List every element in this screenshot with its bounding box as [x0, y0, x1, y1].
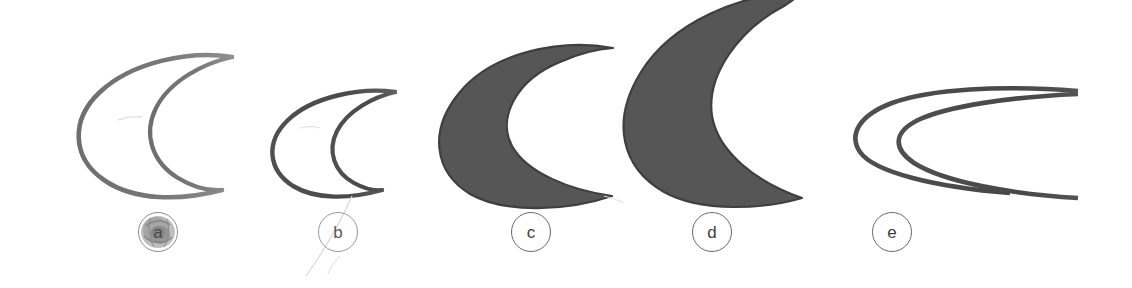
label-circle-c: c [511, 212, 551, 252]
specimen-label-b[interactable]: b [318, 212, 358, 252]
label-letter-e: e [887, 224, 897, 241]
label-letter-d: d [707, 224, 717, 241]
label-letter-c: c [527, 224, 536, 241]
label-circle-d: d [692, 212, 732, 252]
specimen-label-e[interactable]: e [872, 212, 912, 252]
label-circle-e: e [872, 212, 912, 252]
label-circle-a: a [138, 212, 178, 252]
label-letter-a: a [153, 224, 163, 241]
label-letter-b: b [333, 224, 343, 241]
specimen-label-d[interactable]: d [692, 212, 732, 252]
figure-plate: a b c d e [0, 0, 1132, 288]
specimen-label-c[interactable]: c [511, 212, 551, 252]
specimen-label-a[interactable]: a [138, 212, 178, 252]
label-circle-b: b [318, 212, 358, 252]
